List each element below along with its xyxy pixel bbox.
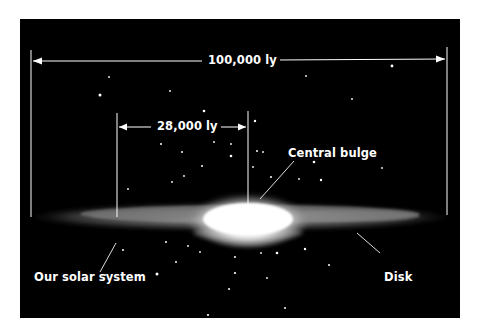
disk-label: Disk — [384, 272, 412, 284]
solar-system-label: Our solar system — [34, 272, 146, 284]
central-bulge-label: Central bulge — [288, 148, 377, 160]
sun-distance-label: 28,000 ly — [154, 121, 221, 133]
galaxy-diagram-panel: 100,000 ly 28,000 ly Central bulge Our s… — [20, 19, 460, 318]
diameter-label: 100,000 ly — [205, 55, 280, 67]
